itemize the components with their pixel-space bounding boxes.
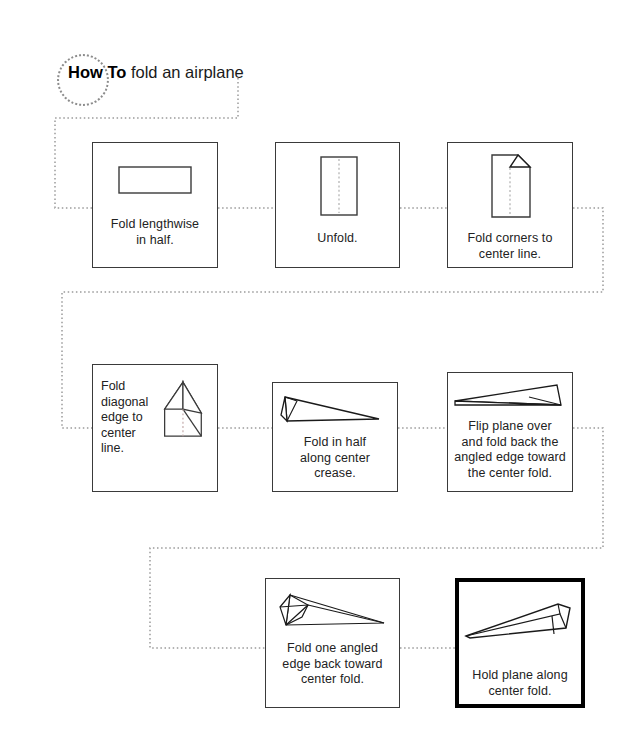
figure-upright-sheet-with-center-crease [303,153,373,219]
figure-plane-profile-flipped [451,379,569,411]
caption-line: center [101,426,153,442]
figure-folded-strip-rectangle [105,157,205,203]
step-caption-5: Fold in half along center crease. [275,435,395,482]
step-caption-6: Flip plane over and fold back the angled… [448,419,572,481]
step-caption-2: Unfold. [279,231,397,247]
caption-line: crease. [275,466,395,482]
page-title-text: How To fold an airplane [68,62,244,82]
caption-line: edge to [101,410,153,426]
step-box-2[interactable]: Unfold. [275,142,400,268]
caption-line: and fold back the [448,435,572,451]
step-box-7[interactable]: Fold one angled edge back toward center … [265,578,400,708]
caption-line: Fold [101,379,153,395]
caption-line: Fold lengthwise [96,217,214,233]
figure-finished-plane [462,596,578,644]
caption-line: center line. [449,247,571,263]
figure-plane-with-wing-fold [272,589,394,631]
step-caption-1: Fold lengthwise in half. [96,217,214,248]
caption-line: Hold plane along [460,668,580,684]
caption-line: diagonal [101,395,153,411]
caption-line: Flip plane over [448,419,572,435]
caption-line: the center fold. [448,466,572,482]
page-title: How To fold an airplane [30,52,290,102]
page-title-bold: How To [68,63,126,81]
figure-sheet-with-diagonal-flaps [155,379,211,447]
step-caption-3: Fold corners to center line. [449,231,571,262]
step-caption-8: Hold plane along center fold. [460,668,580,699]
caption-line: edge back toward [268,657,398,673]
caption-line: center fold. [460,684,580,700]
step-box-1[interactable]: Fold lengthwise in half. [92,142,218,268]
page-title-rest: fold an airplane [126,63,243,81]
caption-line: line. [101,441,153,457]
step-caption-7: Fold one angled edge back toward center … [268,641,398,688]
step-caption-4: Fold diagonal edge to center line. [101,379,153,457]
caption-line: Fold in half [275,435,395,451]
caption-line: along center [275,451,395,467]
caption-line: Unfold. [279,231,397,247]
caption-line: center fold. [268,672,398,688]
diagram-canvas: How To fold an airplane Fold lengthwise … [0,0,621,737]
caption-line: in half. [96,233,214,249]
step-box-5[interactable]: Fold in half along center crease. [272,382,398,492]
caption-line: Fold one angled [268,641,398,657]
step-box-6[interactable]: Flip plane over and fold back the angled… [447,372,573,492]
step-box-4[interactable]: Fold diagonal edge to center line. [92,364,218,492]
step-box-3[interactable]: Fold corners to center line. [447,142,573,268]
caption-line: Fold corners to [449,231,571,247]
figure-sheet-with-folded-corner [474,151,546,223]
figure-plane-profile-narrow [279,391,391,425]
step-box-8[interactable]: Hold plane along center fold. [455,578,585,708]
caption-line: angled edge toward [448,450,572,466]
